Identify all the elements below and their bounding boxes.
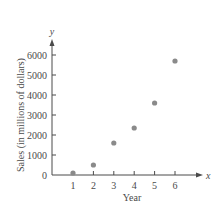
data-point bbox=[70, 170, 75, 175]
y-tick-label: 2000 bbox=[27, 130, 47, 141]
y-axis-title: Sales (in millions of dollars) bbox=[15, 58, 27, 172]
y-tick-label: 6000 bbox=[27, 50, 47, 61]
data-point bbox=[172, 58, 177, 63]
x-axis-title: Year bbox=[123, 192, 142, 203]
x-tick-label: 4 bbox=[132, 180, 137, 191]
data-points bbox=[70, 58, 177, 175]
y-tick-label: 5000 bbox=[27, 70, 47, 81]
x-tick-label: 2 bbox=[91, 180, 96, 191]
data-point bbox=[152, 100, 157, 105]
y-tick-label: 0 bbox=[42, 170, 47, 181]
y-axis-variable-label: y bbox=[49, 26, 55, 37]
axes bbox=[50, 39, 204, 178]
y-tick-label: 4000 bbox=[27, 90, 47, 101]
y-axis-arrow-icon bbox=[50, 39, 55, 46]
x-axis-arrow-icon bbox=[196, 173, 203, 178]
data-point bbox=[132, 125, 137, 130]
y-tick-label: 3000 bbox=[27, 110, 47, 121]
data-point bbox=[111, 140, 116, 145]
x-tick-label: 1 bbox=[71, 180, 76, 191]
x-axis-variable-label: x bbox=[205, 170, 211, 181]
x-tick-label: 6 bbox=[173, 180, 178, 191]
x-tick-label: 3 bbox=[111, 180, 116, 191]
y-tick-label: 1000 bbox=[27, 150, 47, 161]
x-tick-label: 5 bbox=[152, 180, 157, 191]
x-axis-ticks: 123456 bbox=[71, 171, 178, 191]
scatter-chart: 0100020003000400050006000 123456 Sales (… bbox=[0, 0, 222, 216]
data-point bbox=[91, 162, 96, 167]
